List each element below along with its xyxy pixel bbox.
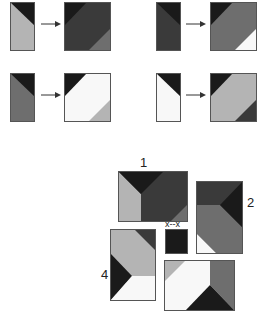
example-2-source-tile (156, 2, 181, 51)
arrow-right-icon (186, 20, 206, 28)
example-2-result-tile (210, 2, 257, 51)
example-3-source-tile (10, 73, 35, 122)
puzzle-piece-3-missing (165, 229, 188, 254)
example-1-source-tile (10, 2, 35, 51)
example-3-result-tile (64, 73, 111, 122)
example-1-result-tile (64, 2, 111, 51)
example-4-result-tile (210, 73, 257, 122)
arrow-right-icon (41, 91, 61, 99)
puzzle-piece-2 (196, 181, 243, 254)
example-4-source-tile (156, 73, 181, 122)
puzzle-piece-1 (118, 171, 188, 222)
piece-4-label: 4 (101, 268, 108, 281)
arrow-right-icon (41, 20, 61, 28)
puzzle-piece-4 (110, 229, 156, 301)
arrow-right-icon (186, 91, 206, 99)
missing-piece-marker: x--x (165, 220, 180, 229)
puzzle-piece-5 (164, 260, 235, 311)
piece-2-label: 2 (247, 196, 254, 209)
piece-1-label: 1 (140, 156, 147, 169)
